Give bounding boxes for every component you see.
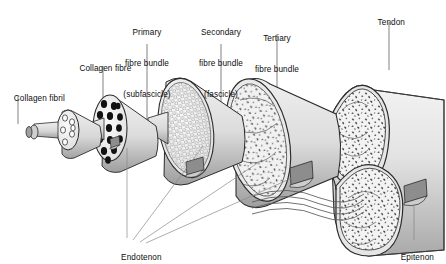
label-primary-fibre-bundle: Primary fibre bundle (subfascicle) bbox=[107, 8, 187, 110]
label-tendon: Tendon bbox=[359, 8, 419, 28]
label-primary-line3: (subfascicle) bbox=[107, 90, 187, 100]
structure-tendon bbox=[330, 85, 444, 256]
label-secondary-line3: (fascicle) bbox=[181, 90, 261, 100]
label-epitenon: Epitenon bbox=[386, 243, 444, 263]
label-primary-line1: Primary bbox=[107, 28, 187, 38]
label-tendon-text: Tendon bbox=[378, 18, 405, 27]
label-collagen-fibril: Collagen fibril bbox=[0, 84, 74, 104]
structure-collagen-fibril bbox=[26, 122, 58, 139]
tendon-structure-diagram: Collagen fibril Collagen fibre Primary f… bbox=[0, 0, 446, 264]
label-tertiary-line2: fibre bundle bbox=[237, 65, 317, 75]
label-tertiary-line1: Tertiary bbox=[237, 34, 317, 44]
label-endotenon: Endotenon bbox=[103, 243, 175, 263]
label-tertiary-fibre-bundle: Tertiary fibre bundle bbox=[237, 14, 317, 85]
label-collagen-fibril-text: Collagen fibril bbox=[14, 94, 65, 103]
label-endotenon-text: Endotenon bbox=[121, 253, 162, 262]
label-primary-line2: fibre bundle bbox=[107, 59, 187, 69]
label-epitenon-text: Epitenon bbox=[401, 253, 434, 262]
